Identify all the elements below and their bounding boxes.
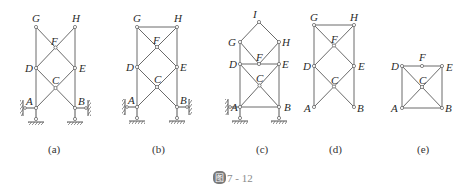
caption-number: 7 - 12 [227, 172, 253, 184]
node-label-G: G [310, 11, 318, 23]
node-label-B: B [357, 102, 364, 114]
node-label-F: F [50, 35, 58, 47]
subfigure-label-a: (a) [48, 143, 61, 156]
figure-caption: 图 7 - 12 [213, 171, 253, 184]
node-label-E: E [179, 61, 187, 73]
node-label-E: E [281, 58, 289, 70]
node-label-F: F [255, 51, 263, 63]
node-label-H: H [71, 12, 81, 24]
node-label-D: D [125, 61, 134, 73]
node-label-A: A [230, 101, 238, 113]
node-label-H: H [173, 12, 183, 24]
node-label-F: F [418, 51, 426, 63]
truss-c: I G H F D E C A B [225, 8, 291, 124]
truss-figure: G H F D E C A B [0, 0, 469, 192]
node-label-F: F [152, 34, 160, 46]
truss-a: G H F D E C A B [20, 12, 91, 125]
node-label-F: F [330, 33, 338, 45]
caption-badge-text: 图 [215, 173, 224, 183]
node-label-G: G [133, 12, 141, 24]
truss-e: D F E C A B [390, 51, 453, 114]
node-label-H: H [281, 36, 291, 48]
node-label-A: A [127, 94, 135, 106]
truss-b: G H F D E C A B [122, 12, 192, 124]
node-label-C: C [419, 74, 427, 86]
node-label-C: C [331, 74, 339, 86]
node-label-D: D [24, 62, 33, 74]
node-label-A: A [303, 102, 311, 114]
node-label-B: B [180, 94, 187, 106]
subfigure-label-d: (d) [329, 143, 342, 156]
node-label-E: E [78, 62, 86, 74]
truss-d: G H F D E C A B [302, 11, 365, 114]
node-label-C: C [256, 72, 264, 84]
subfigure-label-b: (b) [152, 143, 165, 156]
node-label-B: B [445, 102, 452, 114]
node-label-B: B [78, 95, 85, 107]
node-label-C: C [52, 74, 60, 86]
node-label-G: G [228, 36, 236, 48]
node-label-D: D [390, 60, 399, 72]
node-label-D: D [302, 60, 311, 72]
node-label-D: D [228, 58, 237, 70]
subfigure-label-c: (c) [256, 143, 269, 156]
node-label-I: I [252, 8, 258, 20]
node-label-A: A [25, 95, 33, 107]
node-label-B: B [284, 101, 291, 113]
node-label-H: H [349, 11, 359, 23]
node-label-E: E [357, 60, 365, 72]
node-label-C: C [154, 73, 162, 85]
node-label-A: A [390, 102, 398, 114]
subfigure-label-e: (e) [417, 143, 430, 156]
node-label-E: E [445, 61, 453, 73]
node-label-G: G [32, 12, 40, 24]
